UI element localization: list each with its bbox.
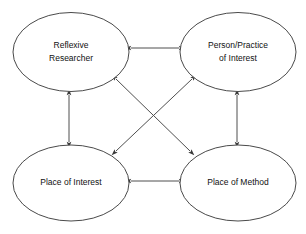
diagram-canvas: Reflexive Researcher Person/Practice of … [0, 0, 306, 234]
node-label-line2: Researcher [49, 53, 93, 63]
node-shape-ellipse [13, 13, 129, 92]
node-reflexive-researcher[interactable]: Reflexive Researcher [13, 13, 129, 92]
node-place-of-method[interactable]: Place of Method [180, 145, 296, 221]
node-person-practice-of-interest[interactable]: Person/Practice of Interest [180, 13, 296, 92]
node-place-of-interest[interactable]: Place of Interest [13, 145, 129, 221]
node-label: Place of Interest [40, 177, 102, 187]
node-label: Reflexive [54, 40, 89, 50]
node-label-line2: of Interest [219, 53, 257, 63]
diagram-svg: Reflexive Researcher Person/Practice of … [0, 0, 306, 234]
node-label: Person/Practice [208, 40, 268, 50]
node-shape-ellipse [180, 13, 296, 92]
node-label: Place of Method [207, 177, 269, 187]
